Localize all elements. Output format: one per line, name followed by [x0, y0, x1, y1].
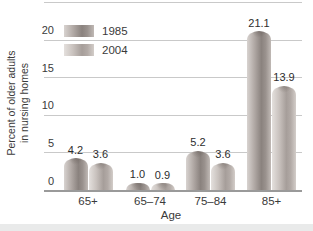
y-tick-label-5: 5 [20, 138, 54, 150]
bar-2004-75–84 [211, 163, 235, 190]
y-axis-title-line1: Percent of older adults [5, 50, 17, 155]
legend-swatch-2004 [64, 44, 94, 56]
x-tick-label-65–74: 65–74 [118, 195, 182, 208]
value-label-1985-85+: 21.1 [241, 18, 277, 30]
y-tick-label-10: 10 [20, 100, 54, 112]
value-label-2004-65+: 3.6 [83, 149, 119, 161]
legend-label-2004: 2004 [102, 44, 128, 56]
legend: 1985 2004 [64, 25, 128, 63]
legend-item-1985: 1985 [64, 25, 128, 37]
value-label-2004-85+: 13.9 [266, 72, 302, 84]
legend-item-2004: 2004 [64, 44, 128, 56]
bar-1985-65+ [64, 158, 88, 190]
legend-label-1985: 1985 [102, 25, 128, 37]
bar-chart-figure: Percent of older adults in nursing homes… [0, 0, 313, 231]
x-axis-title: Age [141, 209, 201, 221]
bottom-band [0, 224, 313, 231]
value-label-2004-75–84: 3.6 [205, 149, 241, 161]
bar-2004-65+ [89, 163, 113, 190]
bar-1985-65–74 [126, 183, 150, 191]
x-tick-label-65+: 65+ [56, 195, 120, 208]
bar-2004-65–74 [151, 183, 175, 190]
x-tick-label-85+: 85+ [240, 195, 304, 208]
value-label-1985-75–84: 5.2 [180, 137, 216, 149]
bar-2004-85+ [272, 86, 296, 191]
legend-swatch-1985 [64, 25, 94, 37]
bar-1985-85+ [247, 31, 271, 190]
x-tick-label-75–84: 75–84 [179, 195, 243, 208]
y-tick-label-20: 20 [20, 25, 54, 37]
gridline-y25 [44, 2, 302, 3]
value-label-2004-65–74: 0.9 [145, 170, 181, 182]
y-tick-label-15: 15 [20, 63, 54, 75]
y-tick-label-0: 0 [20, 176, 54, 188]
